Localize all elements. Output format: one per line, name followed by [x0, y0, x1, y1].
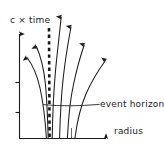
- worldline-5: [67, 45, 84, 138]
- event-horizon-dashed-line: [49, 28, 50, 138]
- axis-group: [16, 34, 107, 139]
- worldline-2: [36, 47, 48, 139]
- event-horizon-label: event horizon: [100, 99, 164, 109]
- x-axis-label: radius: [114, 126, 143, 136]
- worldline-group: [27, 17, 105, 138]
- y-axis-label: c × time: [10, 15, 50, 25]
- worldline-4: [60, 27, 71, 138]
- spacetime-diagram-figure: c × time radius event horizon: [0, 0, 164, 152]
- event-horizon-leader-line: [43, 104, 100, 105]
